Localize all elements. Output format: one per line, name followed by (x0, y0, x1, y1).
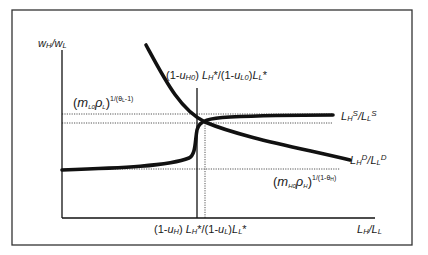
diagram-canvas: wH/wL LH/LL LHS/LLS LHD/LLD (1-uH0) LH*/… (0, 0, 428, 255)
outer-frame (12, 10, 412, 245)
top-employment-label: (1-uH0) LH*/(1-uL0)LL* (166, 69, 268, 82)
x-axis-label: LH/LL (357, 223, 382, 236)
bottom-employment-label: (1-uH) LH*/(1-uL)LL* (154, 223, 247, 236)
y-axis-label: wH/wL (38, 37, 67, 50)
demand-curve (146, 45, 350, 160)
supply-curve-label: LHS/LLS (341, 109, 377, 123)
upper-bound-label: (mL0ρL)1/(θL-1) (73, 95, 133, 110)
lower-bound-label: (mH0ρH)1/(1-θH) (273, 174, 336, 189)
demand-curve-label: LHD/LLD (350, 153, 387, 167)
